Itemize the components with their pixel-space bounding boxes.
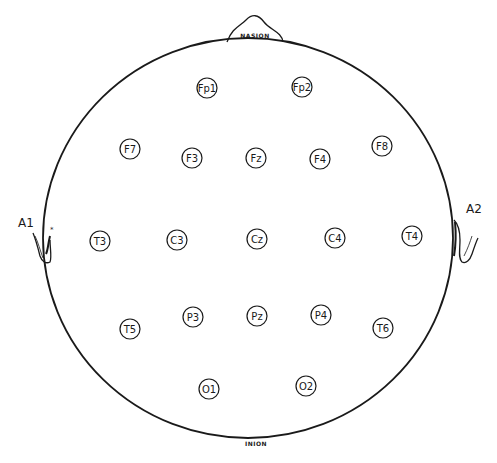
electrode-f8: F8 [372, 136, 392, 156]
electrode-t3: T3 [90, 231, 110, 251]
electrode-o1: O1 [199, 379, 219, 399]
electrode-label: T4 [405, 231, 418, 242]
electrode-label: F3 [186, 153, 198, 164]
electrodes-group: Fp1Fp2F7F3FzF4F8T3C3CzC4T4T5P3PzP4T6O1O2 [90, 77, 422, 399]
right-ear [454, 220, 478, 263]
electrode-t6: T6 [373, 318, 393, 338]
electrode-t4: T4 [402, 226, 422, 246]
a1-label: A1 [18, 216, 34, 230]
electrode-label: F8 [376, 141, 388, 152]
electrode-label: Pz [251, 311, 262, 322]
electrode-label: P4 [315, 310, 327, 321]
electrode-label: Fp2 [293, 82, 311, 93]
electrode-label: F4 [314, 154, 326, 165]
electrode-label: F7 [124, 144, 136, 155]
electrode-label: Fp1 [198, 83, 216, 94]
electrode-t5: T5 [120, 319, 140, 339]
electrode-p3: P3 [183, 307, 203, 327]
electrode-label: O1 [202, 384, 216, 395]
electrode-label: T3 [93, 236, 106, 247]
electrode-label: P3 [187, 312, 199, 323]
electrode-label: O2 [299, 381, 313, 392]
electrode-c4: C4 [325, 228, 345, 248]
electrode-label: T5 [123, 324, 136, 335]
electrode-label: C4 [328, 233, 341, 244]
electrode-f7: F7 [120, 139, 140, 159]
electrode-fz: Fz [246, 148, 266, 168]
svg-text:*: * [50, 226, 54, 234]
a2-label: A2 [466, 202, 482, 216]
electrode-cz: Cz [247, 229, 267, 249]
electrode-label: Cz [251, 234, 263, 245]
head-diagram-svg: NASION * A1 A2 INION Fp1Fp2F7F3FzF4F8T3C… [0, 0, 497, 463]
electrode-pz: Pz [247, 306, 267, 326]
electrode-label: T6 [376, 323, 389, 334]
electrode-f3: F3 [182, 148, 202, 168]
electrode-fp2: Fp2 [292, 77, 312, 97]
inion-label: INION [245, 440, 267, 447]
electrode-p4: P4 [311, 305, 331, 325]
electrode-label: C3 [170, 235, 183, 246]
eeg-diagram: NASION * A1 A2 INION Fp1Fp2F7F3FzF4F8T3C… [0, 0, 497, 463]
electrode-fp1: Fp1 [197, 78, 217, 98]
electrode-f4: F4 [310, 149, 330, 169]
electrode-c3: C3 [167, 230, 187, 250]
electrode-o2: O2 [296, 376, 316, 396]
electrode-label: Fz [250, 153, 261, 164]
